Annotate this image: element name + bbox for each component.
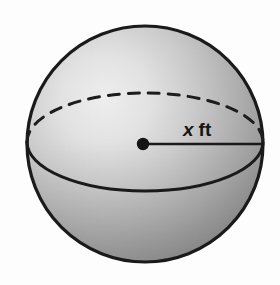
sphere-figure: xft	[0, 0, 280, 285]
center-dot	[137, 138, 149, 150]
sphere-diagram-svg: xft	[0, 0, 280, 285]
radius-variable: x	[182, 119, 195, 140]
radius-unit: ft	[199, 119, 212, 140]
